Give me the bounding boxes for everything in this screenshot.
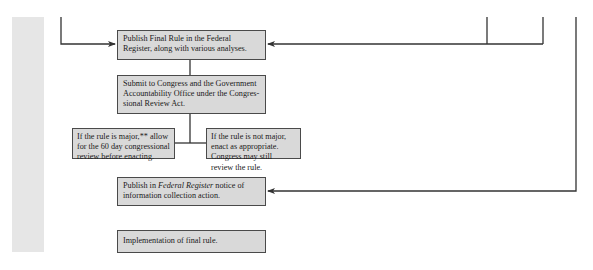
- publish-notice-box: Publish in Federal Register notice of in…: [117, 177, 266, 206]
- submit-congress-text: Submit to Congress and the Government Ac…: [123, 79, 259, 108]
- publish-notice-prefix: Publish in: [123, 181, 158, 190]
- major-rule-text: If the rule is major,** allow for the 60…: [77, 132, 170, 161]
- submit-congress-box: Submit to Congress and the Government Ac…: [117, 75, 266, 114]
- implementation-text: Implementation of final rule.: [123, 236, 218, 245]
- publish-final-rule-box: Publish Final Rule in the Federal Regist…: [117, 30, 266, 60]
- implementation-box: Implementation of final rule.: [117, 230, 266, 253]
- major-rule-box: If the rule is major,** allow for the 60…: [72, 128, 175, 159]
- not-major-rule-box: If the rule is not major, enact as appro…: [206, 128, 301, 159]
- publish-notice-italic: Federal Register: [158, 181, 213, 190]
- publish-final-rule-text: Publish Final Rule in the Federal Regist…: [123, 34, 247, 53]
